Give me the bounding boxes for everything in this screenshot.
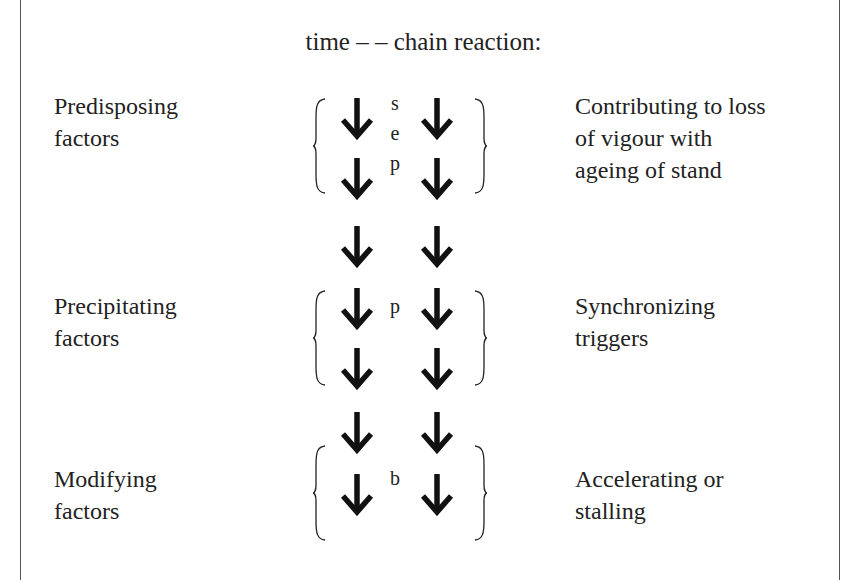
letter-e: e [387, 122, 403, 144]
down-arrow-icon [340, 410, 374, 454]
frame-right-border [839, 0, 840, 580]
down-arrow-icon [420, 156, 454, 200]
down-arrow-icon [420, 286, 454, 330]
down-arrow-icon [420, 472, 454, 516]
letter-b: b [387, 467, 403, 489]
label-precipitating: Precipitating factors [54, 290, 177, 354]
right-brace-icon [474, 445, 488, 541]
diagram-title: time – – chain reaction: [0, 28, 847, 56]
down-arrow-icon [420, 410, 454, 454]
letter-s: s [387, 92, 403, 114]
frame-left-border [20, 0, 21, 580]
right-brace-icon [474, 98, 488, 194]
down-arrow-icon [340, 224, 374, 268]
left-brace-icon [312, 98, 326, 194]
left-brace-icon [312, 445, 326, 541]
label-contributing: Contributing to loss of vigour with agei… [575, 90, 766, 186]
down-arrow-icon [340, 156, 374, 200]
down-arrow-icon [340, 286, 374, 330]
down-arrow-icon [340, 346, 374, 390]
down-arrow-icon [420, 224, 454, 268]
label-synchronizing: Synchronizing triggers [575, 290, 715, 354]
letter-p: p [387, 152, 403, 174]
down-arrow-icon [420, 346, 454, 390]
label-accelerating: Accelerating or stalling [575, 463, 724, 527]
label-predisposing: Predisposing factors [54, 90, 178, 154]
left-brace-icon [312, 290, 326, 386]
letter-p-2: p [387, 295, 403, 317]
down-arrow-icon [420, 96, 454, 140]
label-modifying: Modifying factors [54, 463, 157, 527]
down-arrow-icon [340, 472, 374, 516]
right-brace-icon [474, 290, 488, 386]
down-arrow-icon [340, 96, 374, 140]
